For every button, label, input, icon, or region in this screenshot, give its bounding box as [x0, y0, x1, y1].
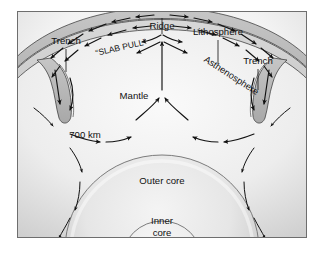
inner-core-label-line2: core [153, 227, 172, 237]
depth-700km-label: 700 km [69, 129, 100, 140]
trench-right-label: Trench [243, 55, 273, 66]
lithosphere-label: Lithosphere [193, 26, 243, 37]
trench-left-label: Trench [51, 35, 81, 46]
earth-cross-section-svg: Trench Trench Ridge Lithosphere “SLAB PU… [18, 12, 306, 237]
ridge-label: Ridge [149, 20, 174, 31]
inner-core-label-line1: Inner [151, 215, 174, 226]
mantle-label: Mantle [120, 90, 149, 101]
diagram-figure: Trench Trench Ridge Lithosphere “SLAB PU… [0, 0, 325, 256]
outer-core-label: Outer core [139, 175, 184, 186]
diagram-frame: Trench Trench Ridge Lithosphere “SLAB PU… [17, 11, 307, 238]
